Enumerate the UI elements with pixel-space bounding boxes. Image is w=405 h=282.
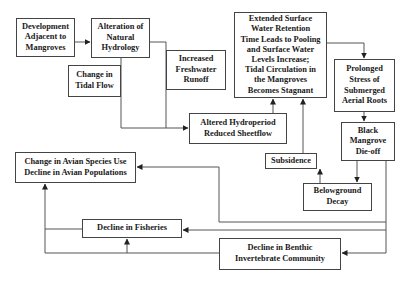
node-belowground-decay: Belowground Decay	[303, 183, 372, 211]
node-alteration-hydrology: Alteration of Natural Hydrology	[91, 18, 150, 58]
node-black-mangrove-dieoff: Black Mangrove Die-off	[341, 122, 395, 161]
node-subsidence: Subsidence	[265, 153, 317, 169]
node-fisheries-decline: Decline in Fisheries	[82, 219, 182, 238]
node-extended-retention: Extended Surface Water Retention Time Le…	[234, 12, 327, 98]
node-benthic-decline: Decline in Benthic Invertebrate Communit…	[219, 238, 341, 270]
node-avian-decline: Change in Avian Species Use Decline in A…	[15, 152, 136, 183]
node-prolonged-stress: Prolonged Stress of Submerged Aerial Roo…	[334, 59, 395, 112]
node-tidal-flow: Change in Tidal Flow	[68, 65, 121, 97]
flow-diagram: Development Adjacent to Mangroves Altera…	[0, 0, 405, 282]
node-altered-hydroperiod: Altered Hydroperiod Reduced Sheetflow	[189, 113, 287, 144]
node-development: Development Adjacent to Mangroves	[16, 18, 75, 57]
node-freshwater-runoff: Increased Freshwater Runoff	[166, 50, 226, 90]
